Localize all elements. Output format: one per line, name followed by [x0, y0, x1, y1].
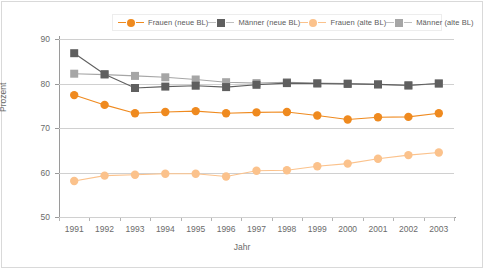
- dot-marker-icon: [313, 111, 321, 119]
- square-marker-icon: [253, 81, 261, 89]
- chart-container: Frauen (neue BL) Männer (neue BL) Frauen…: [0, 0, 484, 269]
- dot-marker-icon: [404, 113, 412, 121]
- square-marker-icon: [101, 70, 109, 78]
- dot-marker-icon: [374, 155, 382, 163]
- dot-marker-icon: [222, 109, 230, 117]
- square-marker-icon: [70, 70, 78, 78]
- dot-marker-icon: [435, 148, 443, 156]
- dot-marker-icon: [70, 91, 78, 99]
- dot-marker-icon: [131, 109, 139, 117]
- series-m-nner-neue-bl: [70, 49, 443, 92]
- square-marker-icon: [131, 72, 139, 80]
- dot-marker-icon: [100, 171, 108, 179]
- dot-marker-icon: [283, 108, 291, 116]
- square-marker-icon: [344, 80, 352, 88]
- series-frauen-neue-bl: [70, 91, 443, 124]
- square-marker-icon: [435, 80, 443, 88]
- dot-marker-icon: [70, 177, 78, 185]
- square-marker-icon: [161, 73, 169, 81]
- series-frauen-alte-bl: [70, 148, 443, 185]
- dot-marker-icon: [344, 115, 352, 123]
- dot-marker-icon: [161, 170, 169, 178]
- square-marker-icon: [161, 83, 169, 91]
- square-marker-icon: [70, 49, 78, 57]
- chart-plot: [0, 0, 484, 269]
- square-marker-icon: [283, 79, 291, 87]
- dot-marker-icon: [131, 171, 139, 179]
- square-marker-icon: [374, 80, 382, 88]
- dot-marker-icon: [313, 162, 321, 170]
- dot-marker-icon: [100, 101, 108, 109]
- dot-marker-icon: [344, 159, 352, 167]
- square-marker-icon: [222, 83, 230, 91]
- square-marker-icon: [131, 84, 139, 92]
- dot-marker-icon: [435, 109, 443, 117]
- dot-marker-icon: [192, 107, 200, 115]
- dot-marker-icon: [283, 166, 291, 174]
- square-marker-icon: [192, 82, 200, 90]
- dot-marker-icon: [374, 113, 382, 121]
- dot-marker-icon: [161, 108, 169, 116]
- dot-marker-icon: [252, 108, 260, 116]
- square-marker-icon: [313, 80, 321, 88]
- dot-marker-icon: [222, 172, 230, 180]
- dot-marker-icon: [252, 167, 260, 175]
- dot-marker-icon: [192, 170, 200, 178]
- dot-marker-icon: [404, 151, 412, 159]
- square-marker-icon: [404, 81, 412, 89]
